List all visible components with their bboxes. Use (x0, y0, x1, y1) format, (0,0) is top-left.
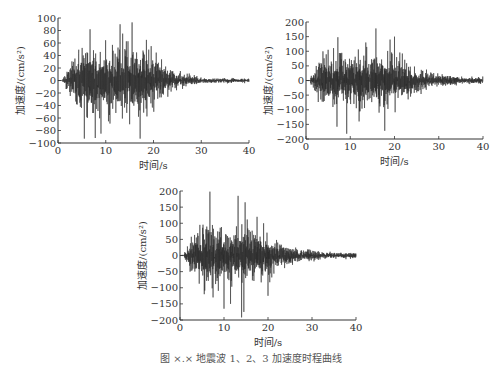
chart-acceleration-2: 200150100500−50−100−150−200010203040时间/s… (250, 0, 502, 179)
x-axis-title: 时间/s (254, 336, 283, 348)
x-axis-title: 时间/s (139, 159, 168, 171)
y-tick-label: 100 (285, 46, 304, 57)
y-tick-label: −40 (35, 100, 56, 111)
y-tick-label: 0 (50, 75, 56, 86)
y-tick-label: −200 (277, 134, 304, 145)
y-tick-label: −100 (277, 104, 304, 115)
y-tick-label: 0 (172, 250, 178, 261)
y-tick-label: 60 (43, 38, 56, 49)
y-tick-label: 20 (43, 63, 56, 74)
y-tick-label: −100 (29, 138, 56, 149)
chart-svg: 200150100500−50−100−150−200010203040时间/s… (120, 172, 380, 348)
chart-svg: 100806040200−20−40−60−80−100010203040时间/… (0, 0, 260, 175)
acceleration-series-line (180, 192, 356, 318)
y-tick-label: −20 (35, 88, 56, 99)
x-tick-label: 20 (262, 322, 275, 333)
x-tick-label: 20 (388, 141, 401, 152)
y-axis-title: 加速度/(cm/s²) (262, 46, 274, 115)
y-tick-label: −50 (157, 266, 178, 277)
y-tick-label: 40 (43, 50, 56, 61)
y-tick-label: 50 (291, 60, 304, 71)
plot-area: 200150100500−50−100−150−200010203040时间/s… (136, 186, 362, 349)
x-axis-title: 时间/s (380, 155, 409, 167)
x-tick-label: 10 (99, 145, 112, 156)
y-tick-label: 200 (159, 186, 178, 197)
y-tick-label: 150 (285, 31, 304, 42)
y-tick-label: 50 (165, 234, 178, 245)
y-tick-label: −200 (151, 315, 178, 326)
plot-area: 100806040200−20−40−60−80−100010203040时间/… (14, 13, 255, 172)
y-tick-label: 0 (298, 75, 304, 86)
y-tick-label: −150 (277, 119, 304, 130)
x-tick-label: 0 (303, 141, 309, 152)
y-tick-label: −50 (283, 90, 304, 101)
y-tick-label: 200 (285, 17, 304, 28)
x-tick-label: 20 (147, 145, 160, 156)
figure-caption: 图 ×.× 地震波 1、2、3 加速度时程曲线 (0, 350, 502, 365)
chart-svg: 200150100500−50−100−150−200010203040时间/s… (250, 0, 502, 175)
y-tick-label: 150 (159, 202, 178, 213)
chart-acceleration-1: 100806040200−20−40−60−80−100010203040时间/… (0, 0, 260, 179)
y-tick-label: −80 (35, 125, 56, 136)
x-tick-label: 40 (477, 141, 490, 152)
x-tick-label: 40 (350, 322, 363, 333)
y-tick-label: 80 (43, 25, 56, 36)
y-tick-label: 100 (159, 218, 178, 229)
plot-area: 200150100500−50−100−150−200010203040时间/s… (262, 17, 489, 168)
chart-acceleration-3: 200150100500−50−100−150−200010203040时间/s… (120, 172, 380, 352)
x-tick-label: 10 (344, 141, 357, 152)
y-axis-title: 加速度/(cm/s²) (14, 46, 26, 115)
y-tick-label: −150 (151, 298, 178, 309)
x-tick-label: 0 (177, 322, 183, 333)
x-tick-label: 30 (195, 145, 208, 156)
x-tick-label: 0 (55, 145, 61, 156)
x-tick-label: 30 (432, 141, 445, 152)
acceleration-series-line (58, 22, 249, 138)
acceleration-series-line (306, 28, 483, 133)
x-tick-label: 30 (306, 322, 319, 333)
y-axis-title: 加速度/(cm/s²) (136, 221, 148, 290)
y-tick-label: −100 (151, 282, 178, 293)
x-tick-label: 10 (218, 322, 231, 333)
y-tick-label: 100 (37, 13, 56, 24)
y-tick-label: −60 (35, 113, 56, 124)
